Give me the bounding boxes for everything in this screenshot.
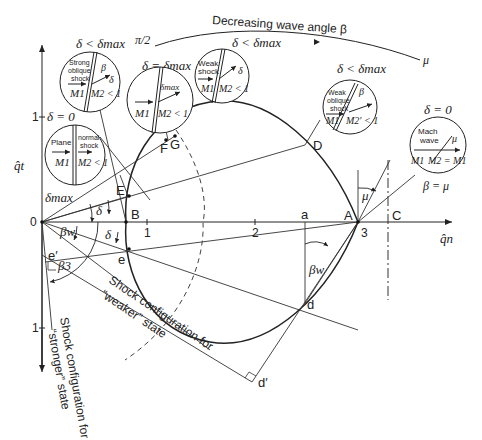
qt-label: q̂t xyxy=(14,158,25,173)
svg-text:e′: e′ xyxy=(48,248,58,263)
svg-text:M1: M1 xyxy=(134,107,150,119)
svg-text:M1: M1 xyxy=(69,87,85,99)
svg-text:normal: normal xyxy=(78,134,100,141)
svg-text:oblique: oblique xyxy=(327,97,350,105)
svg-text:β = μ: β = μ xyxy=(422,179,449,193)
svg-text:Strong: Strong xyxy=(69,59,90,67)
svg-text:M2 < 1: M2 < 1 xyxy=(77,157,108,168)
svg-text:μ: μ xyxy=(361,188,369,203)
svg-text:Plane: Plane xyxy=(51,138,72,147)
inset-weak-shock: δ < δmax Weak shock M1 M2 < 1 δ xyxy=(195,35,281,103)
ray-beta3 xyxy=(42,222,52,330)
svg-text:C: C xyxy=(392,208,401,223)
svg-text:δ = 0: δ = 0 xyxy=(424,102,452,117)
svg-text:βw: βw xyxy=(59,224,75,239)
svg-text:M2 < 1: M2 < 1 xyxy=(90,88,121,99)
svg-text:shock: shock xyxy=(198,67,220,76)
point-labels: A B C D E F G a d d′ e e′ xyxy=(48,137,401,390)
svg-text:δ: δ xyxy=(96,203,103,218)
svg-text:e: e xyxy=(118,252,125,267)
svg-text:M2 = M1: M2 = M1 xyxy=(427,155,466,166)
svg-text:M1: M1 xyxy=(54,156,70,168)
svg-text:M1: M1 xyxy=(410,155,424,166)
inset-max-deflection: δ = δmax M1 M2 < 1 δmax xyxy=(127,58,193,133)
svg-text:β: β xyxy=(100,62,106,73)
svg-text:M2 < 1: M2 < 1 xyxy=(218,83,249,94)
svg-text:M2 < 1: M2 < 1 xyxy=(157,108,188,119)
svg-text:M1: M1 xyxy=(200,83,214,94)
inset-plane-normal-shock: δ = 0 Plane normal shock M1 M2 < 1 xyxy=(45,109,108,185)
svg-text:δmax: δmax xyxy=(45,190,73,205)
pi-over-2: π/2 xyxy=(135,33,150,47)
svg-text:Weak: Weak xyxy=(328,89,346,96)
svg-text:δ < δmax: δ < δmax xyxy=(337,61,386,76)
svg-text:d′: d′ xyxy=(258,375,268,390)
inset-weak-oblique-shock: δ < δmax Weak oblique shock M1 M2′ < 1 β xyxy=(323,61,386,134)
inset-mach-wave: δ = 0 Mach wave μ M1 M2 = M1 β = μ xyxy=(410,102,466,193)
origin-label: 0 xyxy=(30,215,37,229)
svg-text:β: β xyxy=(358,86,364,97)
svg-text:δ: δ xyxy=(238,65,243,76)
svg-text:1: 1 xyxy=(144,226,151,240)
svg-text:shock: shock xyxy=(71,75,90,82)
svg-text:δ: δ xyxy=(109,74,114,85)
svg-text:shock: shock xyxy=(330,105,349,112)
svg-text:1: 1 xyxy=(32,110,39,124)
svg-text:A: A xyxy=(344,208,353,223)
svg-text:B: B xyxy=(131,207,140,222)
svg-text:wave: wave xyxy=(419,136,439,145)
mu-end: μ xyxy=(422,53,429,67)
svg-text:δ: δ xyxy=(105,227,112,242)
top-arc-label: Decreasing wave angle β xyxy=(212,13,348,36)
svg-text:3: 3 xyxy=(361,226,368,240)
svg-text:δ = 0: δ = 0 xyxy=(47,109,75,124)
svg-text:d: d xyxy=(307,297,314,312)
svg-text:G: G xyxy=(170,137,180,152)
svg-text:F: F xyxy=(160,141,168,156)
svg-text:δ < δmax: δ < δmax xyxy=(232,35,281,50)
svg-text:μ: μ xyxy=(451,133,457,144)
qn-label: q̂n xyxy=(440,231,453,246)
svg-text:βw: βw xyxy=(308,262,324,277)
svg-text:D: D xyxy=(313,138,322,153)
svg-text:Mach: Mach xyxy=(418,127,438,136)
decreasing-beta-arc xyxy=(155,31,420,60)
svg-text:oblique: oblique xyxy=(68,67,91,75)
svg-text:2: 2 xyxy=(252,226,259,240)
svg-text:E: E xyxy=(116,183,125,198)
shock-polar-diagram: Decreasing wave angle β π/2 μ q̂t q̂n 0 … xyxy=(0,0,482,440)
svg-text:1: 1 xyxy=(32,321,39,335)
inset-strong-oblique-shock: δ < δmax Strong oblique shock M1 M2 < 1 … xyxy=(60,36,125,112)
svg-text:δ < δmax: δ < δmax xyxy=(76,36,125,51)
svg-text:δmax: δmax xyxy=(160,82,179,92)
svg-text:a: a xyxy=(301,207,309,222)
svg-text:M2′ < 1: M2′ < 1 xyxy=(345,115,378,126)
angle-labels: δmax δ δ βw βw β3 μ xyxy=(45,188,369,277)
svg-text:β3: β3 xyxy=(57,258,71,273)
svg-text:M1: M1 xyxy=(325,115,339,126)
svg-text:shock: shock xyxy=(80,142,99,149)
